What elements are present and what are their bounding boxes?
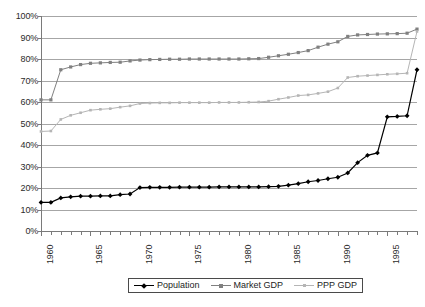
plot-area (41, 16, 417, 231)
data-point-marker (296, 181, 301, 186)
data-point-marker (58, 195, 63, 200)
data-point-marker (256, 185, 261, 190)
x-axis-tick-label: 1980 (243, 245, 253, 264)
data-point-marker (405, 113, 410, 118)
data-point-marker (297, 94, 300, 97)
data-point-marker (99, 108, 102, 111)
data-point-marker (147, 185, 152, 190)
data-point-marker (109, 107, 112, 110)
legend-marker-icon (134, 281, 154, 290)
data-point-marker (385, 114, 390, 119)
series-lines (41, 16, 417, 231)
data-point-marker (178, 101, 181, 104)
data-point-marker (277, 54, 280, 57)
data-point-marker (49, 98, 52, 101)
data-point-marker (218, 101, 221, 104)
data-point-marker (198, 101, 201, 104)
legend-marker-icon (211, 281, 231, 290)
data-point-marker (346, 76, 349, 79)
data-point-marker (167, 185, 172, 190)
legend-marker-icon (294, 281, 314, 290)
data-point-marker (157, 185, 162, 190)
data-point-marker (227, 57, 230, 60)
legend-label: PPP GDP (317, 281, 357, 290)
x-axis-tick (150, 231, 151, 235)
data-point-marker (79, 111, 82, 114)
data-point-marker (257, 57, 260, 60)
data-point-marker (148, 58, 151, 61)
data-point-marker (88, 194, 93, 199)
data-point-marker (266, 184, 271, 189)
x-axis-tick (100, 231, 101, 235)
data-point-marker (89, 109, 92, 112)
data-point-marker (416, 30, 419, 33)
data-point-marker (89, 62, 92, 65)
x-axis-tick (358, 231, 359, 235)
data-point-marker (129, 105, 132, 108)
y-axis-tick-label: 30% (0, 163, 38, 172)
data-point-marker (335, 175, 340, 180)
chart-container: 0%10%20%30%40%50%60%70%80%90%100% 196019… (0, 0, 425, 307)
data-point-marker (415, 67, 420, 72)
x-axis-tick (417, 231, 418, 235)
data-point-marker (326, 176, 331, 181)
x-axis-tick (160, 231, 161, 235)
data-point-marker (149, 102, 152, 105)
legend-entry: PPP GDP (294, 281, 357, 290)
data-point-marker (138, 58, 141, 61)
data-point-marker (207, 185, 212, 190)
y-axis-tick-label: 50% (0, 120, 38, 129)
x-axis-tick (81, 231, 82, 235)
x-axis-tick (219, 231, 220, 235)
data-point-marker (59, 68, 62, 71)
data-point-marker (247, 101, 250, 104)
data-point-marker (79, 63, 82, 66)
x-axis-tick (308, 231, 309, 235)
x-axis-tick (229, 231, 230, 235)
x-axis-labels: 19601965197019751980198519901995 (41, 236, 417, 276)
data-point-marker (267, 100, 270, 103)
x-axis-tick (61, 231, 62, 235)
data-point-marker (139, 102, 142, 105)
data-point-marker (306, 179, 311, 184)
data-point-marker (99, 61, 102, 64)
x-axis-tick (51, 231, 52, 235)
legend-entry: Population (134, 281, 200, 290)
data-point-marker (109, 61, 112, 64)
data-point-marker (346, 35, 349, 38)
data-point-marker (366, 74, 369, 77)
data-point-marker (246, 185, 251, 190)
data-point-marker (276, 184, 281, 189)
data-point-marker (287, 53, 290, 56)
data-point-marker (208, 101, 211, 104)
series-line (41, 70, 417, 203)
x-axis-tick (278, 231, 279, 235)
y-axis-tick-label: 80% (0, 55, 38, 64)
data-point-marker (39, 98, 42, 101)
data-point-marker (337, 87, 340, 90)
data-point-marker (69, 65, 72, 68)
data-point-marker (69, 114, 72, 117)
x-axis-tick (120, 231, 121, 235)
data-point-marker (48, 200, 53, 205)
x-axis-tick (209, 231, 210, 235)
x-axis-tick-label: 1975 (193, 245, 203, 264)
y-axis-tick-label: 70% (0, 77, 38, 86)
data-point-marker (227, 185, 232, 190)
data-point-marker (119, 61, 122, 64)
data-point-marker (168, 58, 171, 61)
legend-label: Population (157, 281, 200, 290)
data-point-marker (188, 57, 191, 60)
data-point-marker (356, 75, 359, 78)
data-point-marker (40, 130, 43, 133)
data-point-marker (257, 101, 260, 104)
x-axis-tick (170, 231, 171, 235)
x-axis-tick-label: 1990 (342, 245, 352, 264)
x-axis-tick-label: 1960 (45, 245, 55, 264)
data-point-marker (98, 194, 103, 199)
y-axis-tick-label: 0% (0, 227, 38, 236)
x-axis-tick (71, 231, 72, 235)
data-point-marker (158, 102, 161, 105)
x-axis-tick (130, 231, 131, 235)
x-axis-tick-label: 1985 (292, 245, 302, 264)
